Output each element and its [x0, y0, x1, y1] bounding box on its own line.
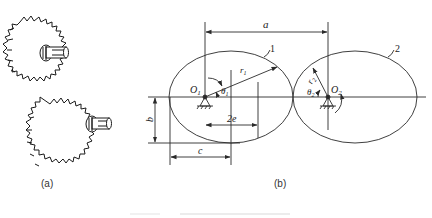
label-r1: r1 [240, 65, 247, 76]
label-o2: O2 [331, 84, 342, 97]
label-gear-1: 1 [270, 43, 275, 54]
label-c: c [198, 145, 203, 156]
elliptical-gears-figure: (a) [0, 0, 432, 218]
upper-gear-shaft-icon [40, 45, 69, 61]
schematic-labels: a 1 2 O1 r1 θ1 O2 r2 θ2 b c 2e [144, 18, 400, 156]
subfigure-a-label: (a) [41, 178, 53, 189]
lower-gear-icon [26, 97, 112, 166]
rotation-arrow-1 [208, 78, 222, 86]
label-theta2: θ2 [307, 87, 314, 98]
lower-gear-shaft-icon [86, 116, 112, 132]
faint-caption-bar [180, 213, 290, 215]
label-r2: r2 [305, 75, 318, 86]
label-b: b [144, 117, 155, 122]
subfigure-b-label: (b) [274, 178, 286, 189]
label-gear-2: 2 [395, 43, 400, 54]
label-o1: O1 [190, 84, 201, 97]
upper-gear-icon [3, 16, 69, 81]
label-2e: 2e [227, 113, 237, 124]
gear-pair-sketch [3, 16, 112, 166]
label-a: a [263, 18, 269, 30]
